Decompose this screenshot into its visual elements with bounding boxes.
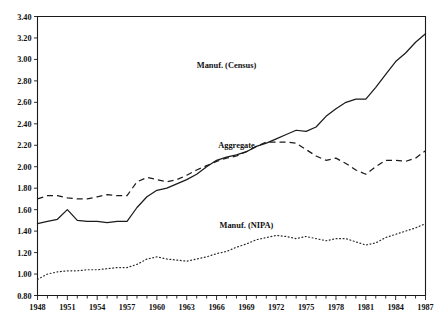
y-tick-label: 1.80 (17, 184, 31, 193)
y-tick-label: 1.00 (17, 270, 31, 279)
x-tick-label: 1972 (268, 303, 284, 312)
x-tick-label: 1948 (29, 303, 45, 312)
x-tick-label: 1963 (179, 303, 195, 312)
data-series-group (38, 34, 426, 280)
x-tick-label: 1978 (328, 303, 344, 312)
y-tick-label: 1.20 (17, 249, 31, 258)
series-line-dashed (38, 142, 426, 199)
series-label: Manuf. (Census) (197, 61, 257, 70)
x-tick-label: 1957 (119, 303, 135, 312)
y-tick-label: 2.60 (17, 98, 31, 107)
y-axis-ticks: 0.801.001.201.401.601.802.002.202.402.60… (17, 13, 37, 301)
series-label: Aggregate (218, 141, 255, 150)
y-tick-label: 2.20 (17, 141, 31, 150)
series-label: Manuf. (NIPA) (220, 221, 274, 230)
x-tick-label: 1966 (208, 303, 224, 312)
y-tick-label: 1.40 (17, 227, 31, 236)
x-tick-label: 1981 (358, 303, 374, 312)
y-tick-label: 3.20 (17, 34, 31, 43)
y-tick-label: 3.00 (17, 55, 31, 64)
x-axis-ticks: 1948195119541957196019631966196919721975… (29, 296, 433, 312)
x-tick-label: 1984 (387, 303, 403, 312)
y-tick-label: 0.80 (17, 292, 31, 301)
line-chart: 0.801.001.201.401.601.802.002.202.402.60… (0, 0, 443, 328)
y-tick-label: 2.00 (17, 163, 31, 172)
y-tick-label: 1.60 (17, 206, 31, 215)
x-tick-label: 1987 (417, 303, 433, 312)
chart-figure: 0.801.001.201.401.601.802.002.202.402.60… (0, 0, 443, 328)
series-annotations: Manuf. (Census)AggregateManuf. (NIPA) (197, 61, 274, 230)
x-tick-label: 1960 (149, 303, 165, 312)
y-tick-label: 2.80 (17, 77, 31, 86)
y-tick-label: 2.40 (17, 120, 31, 129)
series-line-dotted (38, 224, 426, 280)
y-tick-label: 3.40 (17, 13, 31, 22)
x-tick-label: 1969 (238, 303, 254, 312)
x-tick-label: 1954 (89, 303, 105, 312)
x-tick-label: 1951 (59, 303, 75, 312)
x-tick-label: 1975 (298, 303, 314, 312)
